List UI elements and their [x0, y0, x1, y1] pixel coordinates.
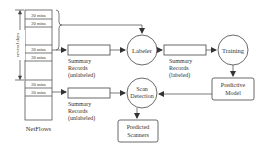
summary-records-unlabeled-top-box [68, 45, 110, 55]
netflows-column [25, 10, 52, 120]
summary-bottom-line2: Records [68, 108, 88, 114]
summary-labeled-line3: (labeled) [169, 72, 190, 79]
summary-top-line1: Summary [68, 58, 91, 64]
netflow-cell-2: 20 mins [31, 21, 46, 26]
window-brace [56, 10, 62, 50]
netflows-label: NetFlows [26, 125, 52, 132]
netflow-cell-3: 20 mins [31, 47, 46, 52]
brace-to-labeler-connector [62, 25, 142, 33]
predicted-scanners-line1: Predicted [127, 124, 150, 130]
summary-bottom-line1: Summary [68, 101, 91, 107]
summary-labeled-line2: Records [169, 65, 189, 71]
predictive-model-line2: Model [225, 90, 241, 96]
duration-label: several days [15, 33, 20, 58]
scan-detection-line2: Detection [130, 93, 153, 99]
scan-detection-line1: Scan [136, 86, 148, 92]
netflow-cell-1: 20 mins [31, 13, 46, 18]
netflow-pipeline-diagram: 20 mins 20 mins 20 mins 20 mins 20 mins … [0, 0, 266, 152]
summary-records-labeled-box [164, 45, 206, 55]
netflow-cell-5: 20 mins [31, 82, 46, 87]
summary-bottom-line3: (unlabeled) [68, 115, 95, 122]
summary-labeled-line1: Summary [169, 58, 192, 64]
predicted-scanners-line2: Scanners [127, 132, 149, 138]
predictive-model-line1: Predictive [221, 82, 246, 88]
summary-records-unlabeled-bottom-box [68, 88, 110, 98]
training-label: Training [222, 47, 245, 54]
netflow-cell-6: 20 mins [31, 90, 46, 95]
netflow-cell-4: 20 mins [31, 55, 46, 60]
summary-top-line3: (unlabeled) [68, 72, 95, 79]
summary-top-line2: Records [68, 65, 88, 71]
labeler-label: Labeler [132, 47, 153, 54]
